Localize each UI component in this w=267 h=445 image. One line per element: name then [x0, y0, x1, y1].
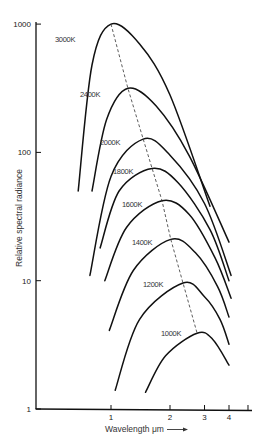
- x-tick-label: 4: [227, 413, 232, 422]
- curve-label-2000k: 2000K: [100, 138, 120, 147]
- y-tick-label: 10: [22, 277, 31, 286]
- curve-1000k: [146, 332, 230, 392]
- y-tick-label: 1: [27, 405, 32, 414]
- curve-1800k: [100, 168, 229, 280]
- x-tick-label: 3: [202, 413, 207, 422]
- y-axis-title: Relative spectral radiance: [14, 169, 24, 267]
- curve-2400k: [92, 88, 229, 242]
- curve-1400k: [109, 239, 229, 331]
- x-axis-ticks: 1234: [109, 405, 248, 422]
- curve-label-2400k: 2400K: [80, 90, 100, 99]
- x-axis: [36, 409, 253, 411]
- axes: [36, 22, 253, 411]
- curve-1600k: [105, 200, 231, 298]
- x-axis-title-text: Wavelength μm: [105, 424, 164, 434]
- curve-label-1600k: 1600K: [122, 200, 142, 209]
- curve-label-3000k: 3000K: [55, 35, 75, 44]
- curve-label-1400k: 1400K: [132, 238, 152, 247]
- x-axis-title: Wavelength μm: [105, 424, 188, 434]
- curve-label-1800k: 1800K: [113, 167, 133, 176]
- curve-label-1000k: 1000K: [161, 329, 181, 338]
- x-tick-label: 2: [168, 413, 173, 422]
- blackbody-radiance-chart: 1101001000 1234 3000K2400K2000K1800K1600…: [0, 0, 267, 445]
- right-arrow-icon: [167, 428, 188, 432]
- y-tick-label: 100: [18, 148, 32, 157]
- curve-label-1200k: 1200K: [143, 280, 163, 289]
- x-tick-label: 1: [109, 413, 114, 422]
- y-tick-label: 1000: [13, 20, 31, 29]
- radiance-curves: [78, 23, 231, 392]
